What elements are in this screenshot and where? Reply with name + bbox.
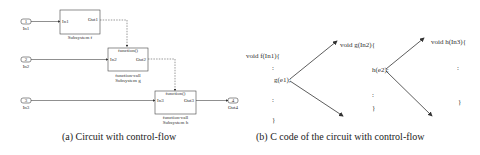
g-header: void g(In2){ [340, 41, 375, 49]
subsystem-h-out: Out3 [184, 98, 195, 103]
g-close: } [372, 104, 375, 112]
h-call: h(e2); [372, 66, 389, 74]
g-call: g(e1); [274, 76, 291, 84]
subsystem-f-label: Subsystem f [68, 35, 93, 40]
subsystem-g-label2: Subsystem g [115, 78, 141, 83]
subsystem-f-in: In1 [62, 19, 69, 24]
caption-b: (b) C code of the circuit with control-f… [256, 131, 425, 142]
subsystem-g-in: In2 [110, 57, 117, 62]
code-diagram: void f(In1){ : g(e1); : } void g(In2){ :… [246, 38, 466, 124]
inport-2-label: In2 [23, 64, 30, 69]
h-ellipsis: : [457, 64, 459, 72]
caption-a: (a) Circuit with control-flow [62, 131, 176, 142]
f-close: } [272, 116, 275, 124]
subsystem-h-label2: Subsystem h [163, 120, 189, 125]
subsystem-h-in: In3 [157, 98, 164, 103]
f-ellipsis-2: : [272, 96, 274, 104]
inport-3-label: In3 [23, 105, 30, 110]
subsystem-h-trigger: function() [166, 91, 186, 96]
circuit-diagram: 1 In1 In1 Out1 Subsystem f 2 In2 functio… [21, 10, 239, 125]
subsystem-g-trigger: function() [118, 48, 138, 53]
h-close: } [458, 98, 461, 106]
inport-1-label: In1 [23, 26, 30, 31]
subsystem-g-out: Out2 [136, 57, 147, 62]
outport-4-label: Out4 [228, 105, 239, 110]
h-header: void h(In3){ [431, 38, 466, 46]
f-header: void f(In1){ [246, 52, 280, 60]
subsystem-f-out: Out1 [88, 17, 99, 22]
f-ellipsis: : [272, 64, 274, 72]
g-ellipsis: : [372, 91, 374, 99]
